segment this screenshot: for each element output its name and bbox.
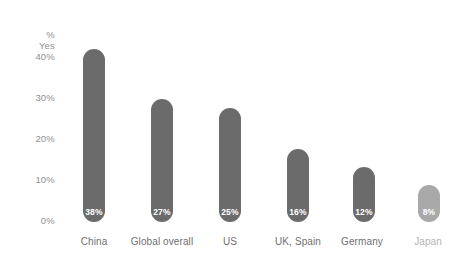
- bar-value-label: 38%: [83, 207, 105, 217]
- bar-value-label: 25%: [219, 207, 241, 217]
- y-axis-tick-20: 20%: [0, 134, 55, 144]
- bar-us[interactable]: 25%: [219, 108, 241, 222]
- y-axis-unit-label: %: [0, 29, 55, 40]
- bar-value-label: 27%: [151, 207, 173, 217]
- bar-value-label: 8%: [418, 207, 440, 217]
- y-axis-tick-40: 40%: [0, 52, 55, 62]
- bar-germany[interactable]: 12%: [353, 167, 375, 222]
- category-label-japan: Japan: [394, 236, 462, 248]
- category-label-germany: Germany: [320, 236, 404, 248]
- bar-china[interactable]: 38%: [83, 49, 105, 222]
- plot-area: 38% 27% 25% 16% 12%: [60, 40, 456, 222]
- y-axis-title-label: Yes: [0, 40, 55, 51]
- bar-global-overall[interactable]: 27%: [151, 99, 173, 222]
- y-axis-tick-10: 10%: [0, 175, 55, 185]
- bar-uk-spain[interactable]: 16%: [287, 149, 309, 222]
- y-axis-tick-30: 30%: [0, 93, 55, 103]
- bar-value-label: 16%: [287, 207, 309, 217]
- bar-chart: % Yes 40% 30% 20% 10% 0% 38% 27% 25%: [0, 0, 462, 261]
- bar-value-label: 12%: [353, 207, 375, 217]
- bar-japan[interactable]: 8%: [418, 185, 440, 222]
- y-axis-tick-0: 0%: [0, 216, 55, 226]
